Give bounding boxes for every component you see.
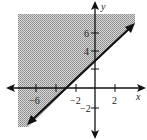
y-tick-label-4: 4 <box>84 46 89 57</box>
y-tick-label-neg2: −2 <box>80 103 91 114</box>
x-axis-label: x <box>135 91 141 102</box>
inequality-graph: y x −6 −2 2 6 4 −2 <box>0 0 147 140</box>
x-tick-label-neg6: −6 <box>29 95 40 106</box>
x-tick-label-2: 2 <box>112 95 117 106</box>
y-axis-label: y <box>100 1 106 12</box>
y-tick-label-6: 6 <box>84 28 89 39</box>
shaded-region <box>18 14 135 127</box>
